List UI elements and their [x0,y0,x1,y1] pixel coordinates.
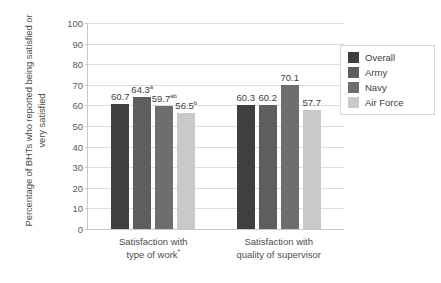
bar-value-label: 70.1 [280,72,299,83]
bar-value-label: 57.7 [302,97,321,108]
y-axis-tick-label: 60 [72,100,83,111]
legend-swatch-icon [348,97,359,108]
y-axis-tick-label: 80 [72,59,83,70]
bar-air-force: 56.5b [177,113,195,229]
y-axis-tick-label: 70 [72,79,83,90]
y-axis-tick-label: 50 [72,121,83,132]
bar-value-label: 60.2 [258,92,277,103]
y-axis-tick-mark [85,105,88,106]
y-axis-tick-mark [85,167,88,168]
y-axis-tick-mark [85,44,88,45]
y-axis-tick-mark [85,64,88,65]
legend-item: Overall [348,52,428,63]
x-axis-group-label: Satisfaction withtype of work* [119,236,188,261]
y-axis-tick-label: 10 [72,203,83,214]
bar-chart: Percentage of BHTs who reported being sa… [0,0,441,283]
y-axis-tick-mark [85,147,88,148]
gridline [88,44,344,45]
bar-overall: 60.3 [237,105,255,229]
y-axis-tick-mark [85,208,88,209]
legend-swatch-icon [348,82,359,93]
gridline [88,64,344,65]
legend-item: Army [348,67,428,78]
legend-label: Army [365,67,387,78]
legend-label: Air Force [365,97,404,108]
x-axis-group-label: Satisfaction withquality of supervisor [236,236,320,261]
legend-item: Air Force [348,97,428,108]
y-axis-tick-mark [85,85,88,86]
bar-value-label: 59.7ab [152,93,177,104]
bar-overall: 60.7 [111,104,129,229]
bar-air-force: 57.7 [303,110,321,229]
bar-value-label: 56.5b [175,100,197,111]
bar-navy: 59.7ab [155,106,173,229]
legend-label: Overall [365,52,395,63]
bar-navy: 70.1 [281,85,299,229]
legend-label: Navy [365,82,387,93]
chart-legend: OverallArmyNavyAir Force [340,45,435,115]
bar-value-label: 60.7 [111,91,130,102]
bar-army: 60.2 [259,105,277,229]
y-axis-tick-label: 90 [72,38,83,49]
bar-army: 64.3a [133,97,151,229]
y-axis-tick-label: 30 [72,162,83,173]
y-axis-tick-mark [85,229,88,230]
y-axis-tick-label: 40 [72,141,83,152]
gridline [88,23,344,24]
legend-swatch-icon [348,67,359,78]
y-axis-title: Percentage of BHTs who reported being sa… [23,13,48,228]
y-axis-tick-label: 100 [67,18,83,29]
legend-swatch-icon [348,52,359,63]
y-axis-tick-label: 0 [78,224,83,235]
y-axis-tick-mark [85,126,88,127]
y-axis-tick-label: 20 [72,182,83,193]
legend-item: Navy [348,82,428,93]
y-axis-tick-mark [85,23,88,24]
bar-value-label: 60.3 [236,92,255,103]
gridline [88,85,344,86]
bar-value-label: 64.3a [131,84,153,95]
y-axis-tick-mark [85,188,88,189]
plot-area: 010203040506070809010060.764.3a59.7ab56.… [87,23,344,230]
